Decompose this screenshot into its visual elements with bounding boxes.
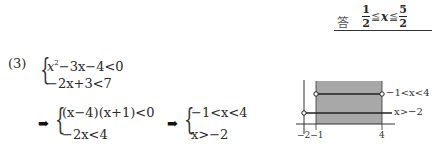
open-circle (302, 111, 306, 115)
open-circle (314, 92, 318, 96)
leq-symbol: ≦ (389, 10, 398, 23)
numerator: 1 (362, 4, 370, 15)
system2-line1: (x−4)(x+1)<0 (62, 105, 154, 121)
term: −3x−4<0 (59, 59, 124, 74)
problem-number: (3) (8, 56, 26, 72)
fraction-upper: 5 2 (399, 4, 407, 29)
system1-line2: −2x+3<7 (47, 76, 112, 92)
range-text: −1<x<4 (386, 87, 430, 98)
label-lower-range: x>−2 (394, 106, 423, 117)
label-upper-range: −1<x<4 (386, 87, 430, 98)
number-line-graph (290, 76, 400, 136)
system2-line2: −2x<4 (62, 127, 108, 143)
fraction-lower: 1 2 (362, 4, 370, 29)
answer-box: 答 1 2 ≦ x ≦ 5 2 (334, 4, 432, 31)
denominator: 2 (399, 18, 407, 29)
system3-line2: x>−2 (191, 127, 228, 143)
arrow-right-icon: ➡ (38, 116, 49, 131)
variable: x (381, 10, 388, 24)
system1-line1: x2−3x−4<0 (47, 55, 124, 75)
answer-label: 答 (337, 13, 349, 30)
answer-expression: 1 2 ≦ x ≦ 5 2 (362, 4, 407, 29)
system3-line1: −1<x<4 (191, 105, 248, 121)
arrow-right-icon: ➡ (167, 116, 178, 131)
leq-symbol: ≦ (371, 10, 380, 23)
tick-label-right: 4 (379, 130, 385, 140)
open-circle (380, 92, 384, 96)
numerator: 5 (399, 4, 407, 15)
shaded-region (316, 81, 382, 124)
tick-label-left: −2−1 (297, 130, 324, 140)
denominator: 2 (362, 18, 370, 29)
